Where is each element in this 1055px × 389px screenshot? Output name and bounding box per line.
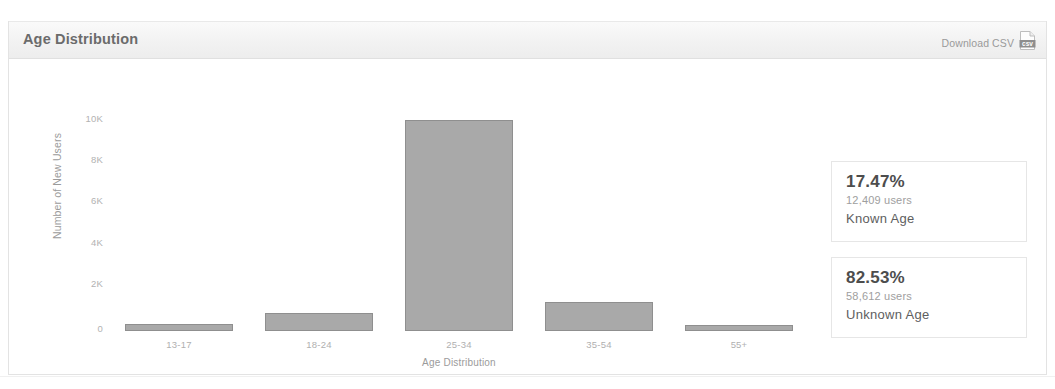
stat-users: 58,612 users [846,288,1026,305]
bar-slot [529,101,669,331]
y-tick-label: 2K [59,278,103,289]
download-csv-button[interactable]: Download CSV csv [942,31,1036,54]
csv-file-icon: csv [1019,31,1036,54]
stat-users: 12,409 users [846,192,1026,209]
bar-slot [389,101,529,331]
y-tick-label: 10K [59,113,103,124]
stat-label: Unknown Age [846,305,1026,325]
stat-card-unknown-age: 82.53% 58,612 users Unknown Age [831,257,1027,338]
age-distribution-panel: Age Distribution Download CSV csv Number… [8,21,1047,375]
bottom-divider [0,376,1055,377]
y-tick-label: 4K [59,237,103,248]
stat-percent: 17.47% [846,171,1026,192]
x-tick-label: 35-54 [529,339,669,350]
stat-percent: 82.53% [846,267,1026,288]
bar-18-24[interactable] [265,313,373,331]
chart-area: Number of New Users 10K 8K 6K 4K 2K 0 [9,58,1046,374]
y-tick-label: 0 [59,323,103,334]
clipped-text-above-panel [0,0,1055,6]
bar-25-34[interactable] [405,120,513,331]
stat-card-known-age: 17.47% 12,409 users Known Age [831,161,1027,242]
bar-55-plus[interactable] [685,325,793,331]
bar-13-17[interactable] [125,324,233,331]
x-tick-label: 55+ [669,339,809,350]
y-axis-ticks: 10K 8K 6K 4K 2K 0 [53,58,103,374]
x-tick-label: 25-34 [389,339,529,350]
bar-slot [669,101,809,331]
svg-text:csv: csv [1022,40,1033,47]
download-csv-label: Download CSV [942,37,1014,49]
bar-series: 13-17 18-24 25-34 35-54 55+ [109,58,809,374]
stat-cards: 17.47% 12,409 users Known Age 82.53% 58,… [831,58,1036,374]
x-axis-title: Age Distribution [109,357,809,368]
page-title: Age Distribution [23,31,138,47]
y-tick-label: 6K [59,195,103,206]
bar-slot [249,101,389,331]
bar-slot [109,101,249,331]
x-tick-label: 18-24 [249,339,389,350]
y-tick-label: 8K [59,154,103,165]
x-tick-label: 13-17 [109,339,249,350]
panel-header: Age Distribution Download CSV csv [9,21,1046,59]
bar-chart: Number of New Users 10K 8K 6K 4K 2K 0 [9,58,829,374]
bar-35-54[interactable] [545,302,653,331]
stat-label: Known Age [846,209,1026,229]
